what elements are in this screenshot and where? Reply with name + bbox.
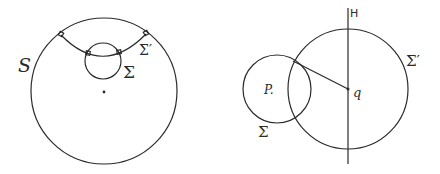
inner-circle-sigma [85,43,121,79]
center-dot [103,91,106,94]
orthogonal-arc-sigma-prime [61,34,146,56]
radius-segment [293,61,348,89]
label-q: q [353,86,361,99]
label-sigma: Σ [123,64,135,81]
point-q-dot [347,88,350,91]
label-sigma-prime-right: Σ′ [406,54,420,69]
label-sigma-right: Σ [258,125,269,140]
left-figure [31,18,177,164]
label-h: H [350,8,358,19]
right-angle-marker [143,30,148,35]
label-sigma-prime: Σ′ [139,43,152,57]
label-p: P. [264,84,273,96]
label-s: S [18,56,31,75]
right-angle-marker [58,31,63,36]
diagram-canvas [0,0,440,174]
